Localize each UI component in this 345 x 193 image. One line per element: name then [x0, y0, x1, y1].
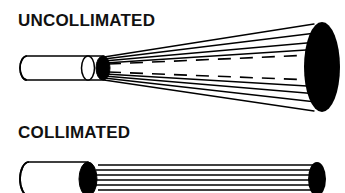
collimation-figure-svg: UNCOLLIMATED	[0, 0, 345, 193]
collimation-diagram: UNCOLLIMATED	[0, 0, 345, 193]
tube-inner-rim	[82, 56, 95, 80]
aperture-ellipse	[79, 162, 97, 193]
aperture-ellipse	[96, 56, 110, 80]
panel-label-collimated: COLLIMATED	[18, 123, 130, 142]
panel-label-uncollimated: UNCOLLIMATED	[18, 11, 155, 30]
beam-spot-ellipse	[304, 22, 340, 112]
collimator-tube-collimated	[20, 162, 88, 193]
tube-body	[20, 162, 88, 193]
